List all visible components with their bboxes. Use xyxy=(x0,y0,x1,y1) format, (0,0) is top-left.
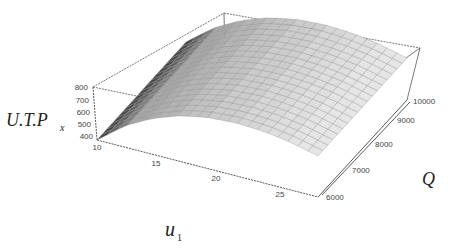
svg-text:6000: 6000 xyxy=(326,193,344,202)
svg-text:U.T.P: U.T.P xyxy=(6,110,48,130)
svg-text:Q: Q xyxy=(422,169,435,189)
y-axis-label: Q xyxy=(422,169,435,189)
svg-text:7000: 7000 xyxy=(352,166,370,175)
svg-text:700: 700 xyxy=(76,96,90,105)
svg-text:20: 20 xyxy=(212,174,221,183)
svg-text:400: 400 xyxy=(80,132,94,141)
x-axis-label: u 1 xyxy=(165,218,182,243)
svg-text:600: 600 xyxy=(77,108,91,117)
svg-text:10: 10 xyxy=(93,143,102,152)
svg-text:500: 500 xyxy=(78,120,92,129)
x-axis-ticks: 10 15 20 25 xyxy=(93,143,285,199)
svg-text:10000: 10000 xyxy=(413,97,436,106)
svg-text:u: u xyxy=(165,218,175,240)
surface-cell xyxy=(97,129,112,140)
surface-plot: 800 700 600 500 400 10 15 20 25 6000 700… xyxy=(0,0,455,251)
svg-text:15: 15 xyxy=(152,159,161,168)
svg-text:9000: 9000 xyxy=(397,116,415,125)
svg-text:800: 800 xyxy=(75,83,89,92)
z-axis-ticks: 800 700 600 500 400 xyxy=(75,83,94,141)
surface-mesh xyxy=(97,18,407,156)
svg-text:x: x xyxy=(59,122,65,133)
svg-text:1: 1 xyxy=(177,232,182,243)
svg-text:25: 25 xyxy=(276,190,285,199)
z-axis-label: U.T.P x xyxy=(6,110,65,133)
svg-text:8000: 8000 xyxy=(375,140,393,149)
